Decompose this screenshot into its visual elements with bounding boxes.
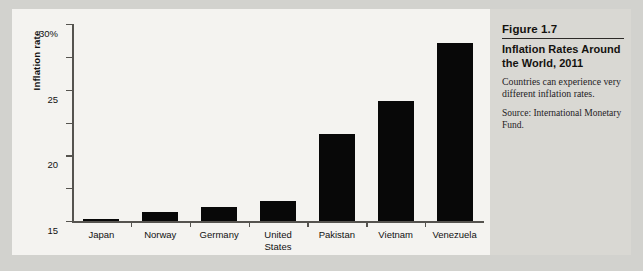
y-tick-label: 15: [47, 225, 58, 236]
x-axis-line: [72, 221, 484, 223]
y-tick: 25: [66, 57, 73, 58]
bar: [378, 101, 414, 221]
y-tick-label: 25: [47, 93, 58, 104]
bar: [83, 219, 119, 221]
figure-title: Inflation Rates Around the World, 2011: [502, 43, 624, 70]
bar: [260, 201, 296, 221]
y-tick: 30%: [66, 24, 73, 25]
plot-area: 051015202530% JapanNorwayGermanyUnited S…: [72, 15, 484, 230]
bar: [142, 212, 178, 221]
figure-number: Figure 1.7: [502, 23, 624, 37]
x-tick-label: Venezuela: [417, 229, 492, 241]
bar: [201, 207, 237, 221]
y-tick: 20: [66, 90, 73, 91]
y-tick: 0: [66, 221, 73, 222]
bar: [437, 43, 473, 221]
x-tick: [307, 222, 308, 227]
figure-source: Source: International Monetary Fund.: [502, 107, 624, 131]
figure-page: Inflation rate 051015202530% JapanNorway…: [0, 0, 643, 271]
figure-rule: [502, 38, 624, 39]
x-tick: [131, 222, 132, 227]
y-tick-label: 30%: [39, 28, 58, 39]
x-tick: [425, 222, 426, 227]
y-tick-label: 20: [47, 159, 58, 170]
figure-card: Inflation rate 051015202530% JapanNorway…: [12, 9, 631, 255]
y-tick: 5: [66, 188, 73, 189]
figure-description: Countries can experience very different …: [502, 76, 624, 100]
y-tick: 10: [66, 155, 73, 156]
caption-panel: Figure 1.7 Inflation Rates Around the Wo…: [490, 9, 631, 255]
y-tick: 15: [66, 123, 73, 124]
bar: [319, 134, 355, 221]
x-tick: [249, 222, 250, 227]
chart-panel: Inflation rate 051015202530% JapanNorway…: [12, 9, 490, 255]
x-tick: [366, 222, 367, 227]
x-tick: [190, 222, 191, 227]
